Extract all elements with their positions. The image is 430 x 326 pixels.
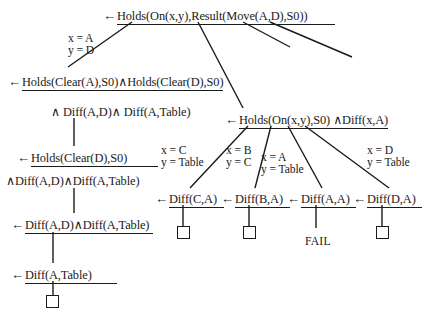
substitution-line: y = D xyxy=(68,45,94,57)
substitution-label-sub-root: x = Ay = D xyxy=(68,33,94,56)
clause-text: Holds(On(x,y),Result(Move(A,D),S0)) xyxy=(117,10,335,25)
left-arrow-icon: ← xyxy=(103,8,116,23)
tree-edge xyxy=(270,22,352,57)
tree-edge xyxy=(198,22,243,108)
clause-node-n5: ←Diff(A,D)∧Diff(A,Table) xyxy=(11,218,153,234)
clause-text: Diff(B,A) xyxy=(235,193,290,208)
substitution-line: y = C xyxy=(226,157,251,169)
substitution-line: y = Table xyxy=(367,157,410,169)
clause-node-n4b: ∧Diff(A,D)∧Diff(A,Table) xyxy=(6,175,139,188)
clause-text: Diff(D,A) xyxy=(367,193,422,208)
empty-clause-box-box-d xyxy=(376,226,389,239)
substitution-line: y = Table xyxy=(161,157,204,169)
empty-clause-box-box-left xyxy=(46,295,59,308)
left-arrow-icon: ← xyxy=(221,191,234,206)
left-arrow-icon: ← xyxy=(11,267,24,282)
substitution-line: x = A xyxy=(68,33,94,45)
clause-node-n4: ←Holds(Clear(D),S0) xyxy=(17,151,158,167)
clause-node-n3: ←Holds(On(x,y),S0) ∧Diff(x,A) xyxy=(225,113,388,129)
substitution-line: y = Table xyxy=(261,164,304,176)
fail-label: FAIL xyxy=(305,235,331,248)
substitution-label-sub-d: x = Dy = Table xyxy=(367,145,410,168)
left-arrow-icon: ← xyxy=(155,191,168,206)
clause-text: Holds(Clear(D),S0) xyxy=(31,152,158,167)
clause-node-root: ←Holds(On(x,y),Result(Move(A,D),S0)) xyxy=(103,9,335,25)
left-arrow-icon: ← xyxy=(287,191,300,206)
clause-text: Diff(A,Table) xyxy=(25,269,117,284)
substitution-line: x = A xyxy=(261,152,304,164)
proof-tree-diagram: ←Holds(On(x,y),Result(Move(A,D),S0))←Hol… xyxy=(0,0,430,326)
substitution-label-sub-b: x = By = C xyxy=(226,145,251,168)
tree-edge xyxy=(243,22,290,47)
clause-text: ∧Diff(A,D)∧Diff(A,Table) xyxy=(6,174,139,188)
substitution-line: x = C xyxy=(161,145,204,157)
empty-clause-box-box-c xyxy=(177,226,190,239)
substitution-label-sub-a: x = Ay = Table xyxy=(261,152,304,175)
clause-node-n2: ←Holds(Clear(A),S0)∧Holds(Clear(D),S0) xyxy=(8,75,223,91)
clause-node-leaf-a: ←Diff(A,A) xyxy=(287,192,356,208)
clause-node-leaf-b: ←Diff(B,A) xyxy=(221,192,290,208)
substitution-label-sub-c: x = Cy = Table xyxy=(161,145,204,168)
left-arrow-icon: ← xyxy=(11,217,24,232)
clause-node-n6: ←Diff(A,Table) xyxy=(11,268,117,284)
clause-node-leaf-c: ←Diff(C,A) xyxy=(155,192,224,208)
clause-text: Holds(Clear(A),S0)∧Holds(Clear(D),S0) xyxy=(22,76,224,91)
clause-text: Holds(On(x,y),S0) ∧Diff(x,A) xyxy=(239,114,388,129)
clause-node-leaf-d: ←Diff(D,A) xyxy=(353,192,422,208)
clause-text: Diff(C,A) xyxy=(169,193,224,208)
substitution-line: x = B xyxy=(226,145,251,157)
left-arrow-icon: ← xyxy=(17,150,30,165)
clause-text: Diff(A,D)∧Diff(A,Table) xyxy=(25,219,153,234)
clause-node-n2b: ∧ Diff(A,D)∧ Diff(A,Table) xyxy=(51,106,190,119)
clause-text: ∧ Diff(A,D)∧ Diff(A,Table) xyxy=(51,105,190,119)
left-arrow-icon: ← xyxy=(8,74,21,89)
left-arrow-icon: ← xyxy=(225,112,238,127)
left-arrow-icon: ← xyxy=(353,191,366,206)
empty-clause-box-box-b xyxy=(243,226,256,239)
clause-text: Diff(A,A) xyxy=(301,193,356,208)
substitution-line: x = D xyxy=(367,145,410,157)
